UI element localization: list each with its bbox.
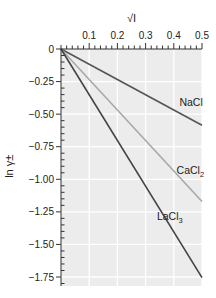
y-tick-label: −1.50 xyxy=(29,239,55,250)
y-axis-title: ln γ± xyxy=(3,155,15,178)
y-tick-label: 0 xyxy=(48,44,54,55)
y-tick-label: −1.25 xyxy=(29,206,55,217)
y-tick-label: −1.00 xyxy=(29,174,55,185)
x-tick-label: 0.4 xyxy=(167,30,181,41)
x-tick-label: 0.2 xyxy=(110,30,124,41)
series-label-nacl: NaCl xyxy=(179,96,202,108)
x-axis-title: √I xyxy=(127,12,136,24)
x-tick-label: 0.3 xyxy=(139,30,153,41)
y-tick-label: −0.25 xyxy=(29,76,55,87)
y-tick-label: −1.75 xyxy=(29,272,55,283)
y-tick-label: −0.50 xyxy=(29,109,55,120)
x-tick-label: 0.5 xyxy=(195,30,209,41)
y-tick-label: −0.75 xyxy=(29,141,55,152)
x-tick-label: 0.1 xyxy=(82,30,96,41)
chart: 0.10.20.30.40.50−0.25−0.50−0.75−1.00−1.2… xyxy=(0,0,216,298)
